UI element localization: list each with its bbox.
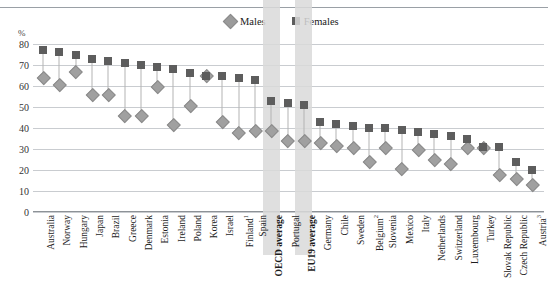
data-column[interactable]: [296, 44, 312, 212]
x-axis-tick-label: Hungary: [80, 215, 90, 248]
females-data-point[interactable]: [463, 135, 471, 143]
data-column[interactable]: [279, 44, 295, 212]
females-data-point[interactable]: [332, 120, 340, 128]
x-axis-tick-label: Belgium2: [373, 215, 386, 251]
males-data-point[interactable]: [151, 80, 164, 93]
females-data-point[interactable]: [365, 124, 373, 132]
females-data-point[interactable]: [88, 55, 96, 63]
data-column[interactable]: [328, 44, 344, 212]
data-column[interactable]: [68, 44, 84, 212]
females-data-point[interactable]: [430, 130, 438, 138]
females-data-point[interactable]: [528, 166, 536, 174]
x-axis-tick-label: Netherlands: [438, 215, 448, 261]
data-column[interactable]: [491, 44, 507, 212]
data-column[interactable]: [247, 44, 263, 212]
males-data-point[interactable]: [510, 172, 523, 185]
females-data-point[interactable]: [267, 97, 275, 105]
data-column[interactable]: [198, 44, 214, 212]
x-axis-tick-label: Czech Republic: [520, 215, 530, 275]
males-data-point[interactable]: [395, 162, 408, 175]
males-data-point[interactable]: [526, 178, 539, 191]
x-axis-tick-label: Switzerland: [455, 215, 465, 260]
females-data-point[interactable]: [349, 122, 357, 130]
males-data-point[interactable]: [461, 141, 474, 154]
males-data-point[interactable]: [412, 143, 425, 156]
data-column[interactable]: [116, 44, 132, 212]
males-data-point[interactable]: [363, 155, 376, 168]
females-data-point[interactable]: [398, 126, 406, 134]
data-column[interactable]: [459, 44, 475, 212]
males-data-point[interactable]: [428, 153, 441, 166]
data-column[interactable]: [426, 44, 442, 212]
males-data-point[interactable]: [379, 141, 392, 154]
males-data-point[interactable]: [281, 134, 294, 147]
males-data-point[interactable]: [347, 141, 360, 154]
females-data-point[interactable]: [153, 63, 161, 71]
data-column[interactable]: [394, 44, 410, 212]
females-data-point[interactable]: [218, 72, 226, 80]
females-data-point[interactable]: [495, 143, 503, 151]
data-column[interactable]: [182, 44, 198, 212]
females-data-point[interactable]: [39, 46, 47, 54]
data-column[interactable]: [231, 44, 247, 212]
data-column[interactable]: [361, 44, 377, 212]
data-column[interactable]: [51, 44, 67, 212]
females-data-point[interactable]: [55, 48, 63, 56]
data-column[interactable]: [35, 44, 51, 212]
females-data-point[interactable]: [381, 124, 389, 132]
females-data-point[interactable]: [72, 51, 80, 59]
data-column[interactable]: [410, 44, 426, 212]
males-data-point[interactable]: [69, 65, 82, 78]
gridline: [33, 212, 544, 213]
females-data-point[interactable]: [186, 69, 194, 77]
females-data-point[interactable]: [316, 118, 324, 126]
data-column[interactable]: [100, 44, 116, 212]
females-data-point[interactable]: [104, 57, 112, 65]
males-data-point[interactable]: [37, 71, 50, 84]
females-data-point[interactable]: [479, 143, 487, 151]
data-column[interactable]: [508, 44, 524, 212]
data-column[interactable]: [263, 44, 279, 212]
females-data-point[interactable]: [235, 74, 243, 82]
females-data-point[interactable]: [512, 158, 520, 166]
males-data-point[interactable]: [216, 115, 229, 128]
males-data-point[interactable]: [167, 118, 180, 131]
males-data-point[interactable]: [53, 78, 66, 91]
males-data-point[interactable]: [493, 168, 506, 181]
males-data-point[interactable]: [135, 109, 148, 122]
males-data-point[interactable]: [444, 157, 457, 170]
males-data-point[interactable]: [102, 88, 115, 101]
males-data-point[interactable]: [86, 88, 99, 101]
females-data-point[interactable]: [414, 128, 422, 136]
males-data-point[interactable]: [249, 124, 262, 137]
legend-item-males: Males: [225, 16, 266, 27]
y-axis-tick-label: 50: [19, 102, 29, 113]
data-column[interactable]: [442, 44, 458, 212]
females-data-point[interactable]: [300, 101, 308, 109]
data-column[interactable]: [84, 44, 100, 212]
females-data-point[interactable]: [137, 61, 145, 69]
males-data-point[interactable]: [265, 124, 278, 137]
males-data-point[interactable]: [118, 109, 131, 122]
females-data-point[interactable]: [284, 99, 292, 107]
data-column[interactable]: [345, 44, 361, 212]
data-column[interactable]: [475, 44, 491, 212]
x-axis-tick-label: Slovak Republic: [504, 215, 514, 278]
data-column[interactable]: [133, 44, 149, 212]
females-data-point[interactable]: [251, 76, 259, 84]
males-data-point[interactable]: [314, 136, 327, 149]
data-column[interactable]: [377, 44, 393, 212]
females-data-point[interactable]: [169, 65, 177, 73]
females-data-point[interactable]: [121, 59, 129, 67]
females-data-point[interactable]: [447, 132, 455, 140]
data-column[interactable]: [524, 44, 540, 212]
males-data-point[interactable]: [298, 134, 311, 147]
males-data-point[interactable]: [330, 139, 343, 152]
data-column[interactable]: [312, 44, 328, 212]
females-data-point[interactable]: [202, 72, 210, 80]
data-column[interactable]: [149, 44, 165, 212]
data-column[interactable]: [214, 44, 230, 212]
males-data-point[interactable]: [184, 99, 197, 112]
males-data-point[interactable]: [232, 126, 245, 139]
data-column[interactable]: [165, 44, 181, 212]
